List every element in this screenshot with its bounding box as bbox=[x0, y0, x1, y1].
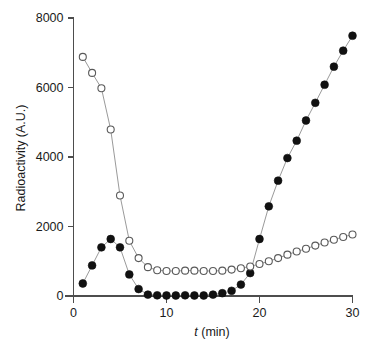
data-point bbox=[182, 267, 189, 274]
data-point bbox=[191, 292, 199, 300]
data-point bbox=[154, 267, 161, 274]
x-tick-label-10: 10 bbox=[160, 306, 174, 320]
data-point bbox=[135, 285, 143, 293]
data-point bbox=[349, 32, 357, 40]
data-point bbox=[107, 126, 114, 133]
data-point bbox=[228, 287, 236, 295]
data-point bbox=[163, 292, 171, 300]
data-point bbox=[284, 251, 291, 258]
data-point bbox=[88, 262, 96, 270]
y-tick-label-2000: 2000 bbox=[36, 220, 64, 234]
y-tick-label-6000: 6000 bbox=[36, 81, 64, 95]
y-tick-label-4000: 4000 bbox=[36, 150, 64, 164]
x-axis-title-units: (min) bbox=[198, 325, 230, 339]
data-point bbox=[302, 117, 310, 125]
data-point bbox=[275, 255, 282, 262]
data-point bbox=[163, 267, 170, 274]
data-point bbox=[144, 264, 151, 271]
series-line-open-circles bbox=[83, 57, 353, 271]
data-point bbox=[228, 266, 235, 273]
data-point bbox=[256, 235, 264, 243]
y-tick-label-8000: 8000 bbox=[36, 11, 64, 25]
chart-canvas: 020004000600080000102030 Radioactivity (… bbox=[0, 0, 372, 349]
data-point bbox=[79, 280, 87, 288]
radioactivity-time-chart: 020004000600080000102030 Radioactivity (… bbox=[0, 0, 372, 349]
axis-ticks bbox=[68, 18, 353, 303]
data-point bbox=[126, 237, 133, 244]
data-point bbox=[349, 231, 356, 238]
data-point bbox=[172, 292, 180, 300]
x-tick-label-20: 20 bbox=[253, 306, 267, 320]
data-series bbox=[79, 32, 357, 300]
series-line-filled-circles bbox=[83, 36, 353, 296]
data-point bbox=[219, 267, 226, 274]
data-point bbox=[98, 243, 106, 251]
data-point bbox=[303, 245, 310, 252]
data-point bbox=[311, 99, 319, 107]
data-point bbox=[321, 239, 328, 246]
data-point bbox=[237, 265, 244, 272]
data-point bbox=[116, 243, 124, 251]
data-point bbox=[107, 235, 115, 243]
data-point bbox=[293, 248, 300, 255]
data-point bbox=[117, 192, 124, 199]
data-point bbox=[210, 267, 217, 274]
data-point bbox=[274, 177, 282, 185]
data-point bbox=[330, 63, 338, 71]
y-tick-label-0: 0 bbox=[57, 289, 64, 303]
x-tick-label-30: 30 bbox=[346, 306, 360, 320]
data-point bbox=[247, 263, 254, 270]
data-point bbox=[125, 271, 133, 279]
data-point bbox=[218, 289, 226, 297]
data-point bbox=[79, 53, 86, 60]
data-point bbox=[284, 154, 292, 162]
data-point bbox=[181, 291, 189, 299]
x-tick-label-0: 0 bbox=[70, 306, 77, 320]
data-point bbox=[265, 202, 273, 210]
x-axis-title: t (min) bbox=[194, 325, 229, 339]
data-point bbox=[89, 69, 96, 76]
data-point bbox=[340, 233, 347, 240]
data-point bbox=[144, 291, 152, 299]
data-point bbox=[200, 292, 208, 300]
data-point bbox=[135, 255, 142, 262]
axes bbox=[65, 18, 353, 296]
series-open-circles bbox=[79, 53, 356, 274]
data-point bbox=[191, 267, 198, 274]
data-point bbox=[256, 261, 263, 268]
data-point bbox=[237, 281, 245, 289]
series-filled-circles bbox=[79, 32, 357, 300]
data-point bbox=[209, 291, 217, 299]
data-point bbox=[330, 236, 337, 243]
data-point bbox=[265, 258, 272, 265]
y-axis-title: Radioactivity (A.U.) bbox=[14, 105, 28, 212]
data-point bbox=[321, 81, 329, 89]
data-point bbox=[200, 267, 207, 274]
data-point bbox=[312, 242, 319, 249]
data-point bbox=[172, 267, 179, 274]
data-point bbox=[153, 291, 161, 299]
data-point bbox=[339, 47, 347, 55]
data-point bbox=[98, 85, 105, 92]
data-point bbox=[293, 137, 301, 145]
